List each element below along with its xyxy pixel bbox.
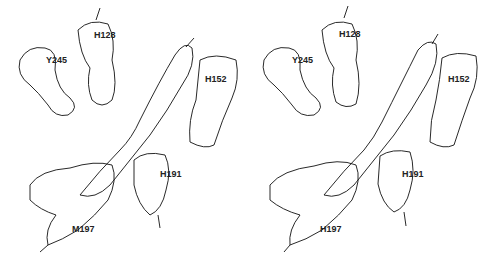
residue-label: Y245 xyxy=(46,56,67,65)
stereo-panel-left: Y245 H128 H152 H191 M197 xyxy=(0,0,244,256)
density-mesh-left xyxy=(0,0,244,256)
residue-label: H191 xyxy=(160,170,182,179)
residue-label: M197 xyxy=(72,225,95,234)
residue-label: H128 xyxy=(94,31,116,40)
stereo-density-figure: Y245 H128 H152 H191 M197 Y245 H128 H152 xyxy=(0,0,488,256)
residue-label: H152 xyxy=(448,75,470,84)
residue-label: H152 xyxy=(205,75,227,84)
density-mesh-right xyxy=(244,0,488,256)
residue-label: H197 xyxy=(320,225,342,234)
stereo-panel-right: Y245 H128 H152 H191 H197 xyxy=(244,0,488,256)
residue-label: H191 xyxy=(402,170,424,179)
residue-label: H128 xyxy=(339,30,361,39)
residue-label: Y245 xyxy=(292,56,313,65)
